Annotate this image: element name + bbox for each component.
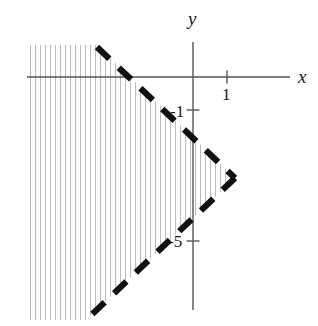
y-axis-label: y — [188, 9, 196, 28]
y-tick-label-minus-5: -5 — [168, 233, 182, 250]
coordinate-plane-svg — [0, 0, 318, 326]
x-tick-label-1: 1 — [222, 86, 231, 103]
x-axis-label: x — [298, 67, 306, 86]
y-tick-label-minus-1: -1 — [170, 103, 184, 120]
shaded-region — [27, 45, 235, 320]
graph-figure: x y 1 -1 -5 — [0, 0, 318, 326]
